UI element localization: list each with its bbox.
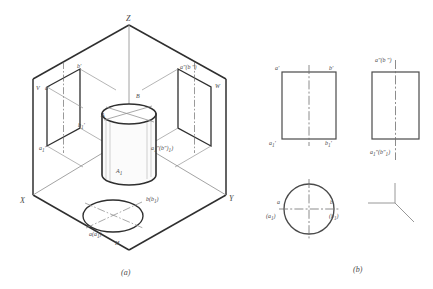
label-top-a: a bbox=[277, 199, 280, 205]
figure-canvas: Z X Y V W H a' b' b1' a1' a″(b ″) a1″(b″… bbox=[0, 0, 433, 289]
top-view-group: a (a1) b (b1) bbox=[266, 179, 339, 239]
engineering-drawing-figure: Z X Y V W H a' b' b1' a1' a″(b ″) a1″(b″… bbox=[0, 0, 433, 289]
label-side-a-b-dbl-prime: a″(b ″) bbox=[375, 57, 392, 64]
label-v-a-prime: a' bbox=[45, 85, 50, 91]
ray-b-prime bbox=[80, 69, 116, 90]
label-front-b-prime: b' bbox=[329, 65, 334, 71]
ray-a1-prime bbox=[47, 146, 83, 167]
label-axis-x: X bbox=[19, 196, 26, 205]
label-v-a1-prime: a1' bbox=[39, 145, 47, 153]
label-plane-v: V bbox=[36, 85, 41, 91]
edge-y-to-bottom bbox=[129, 195, 226, 250]
h-plane-projection-ellipse bbox=[83, 200, 143, 232]
edge-z-to-vtop bbox=[33, 25, 129, 79]
orthographic-views-diagram: a' b' a1' b1' a″(b ″) a1″(b″1) a (a1) b … bbox=[266, 57, 419, 274]
label-h-b-b1: b(b1) bbox=[146, 196, 159, 204]
label-cylinder-a: A bbox=[100, 112, 105, 118]
label-w-a-b-dbl-prime: a″(b ″) bbox=[180, 64, 197, 71]
ray-a-dbl-prime bbox=[142, 69, 178, 90]
projection-axis-origin bbox=[368, 183, 414, 222]
label-axis-y: Y bbox=[229, 194, 235, 203]
axis-origin-diagonal bbox=[395, 203, 414, 222]
ray-w-lower bbox=[175, 146, 211, 167]
label-plane-h: H bbox=[114, 240, 120, 246]
label-front-b1-prime: b1' bbox=[325, 140, 333, 148]
label-w-a1-b1-dbl-prime: a1″(b″)1) bbox=[151, 145, 173, 153]
label-axis-z: Z bbox=[126, 14, 131, 23]
h-centerline-2 bbox=[86, 202, 142, 228]
h-ellipse-centerlines bbox=[85, 202, 143, 228]
label-h-a-a1: a(a1) bbox=[89, 231, 102, 239]
h-ellipse-body bbox=[83, 200, 143, 232]
pictorial-diagram: Z X Y V W H a' b' b1' a1' a″(b ″) a1″(b″… bbox=[19, 14, 235, 277]
label-top-b1: (b1) bbox=[329, 213, 339, 221]
caption-a: (a) bbox=[121, 268, 131, 277]
caption-b: (b) bbox=[353, 265, 363, 274]
label-cylinder-b: B bbox=[136, 93, 140, 99]
h-centerline-1 bbox=[85, 203, 143, 228]
label-top-a1: (a1) bbox=[266, 213, 276, 221]
label-plane-w: W bbox=[215, 83, 221, 89]
side-view-group: a″(b ″) a1″(b″1) bbox=[370, 57, 419, 160]
label-side-a1-b1-dbl-prime: a1″(b″1) bbox=[370, 149, 390, 157]
cylinder-solid bbox=[102, 104, 156, 185]
front-view-group: a' b' a1' b1' bbox=[269, 65, 336, 148]
label-top-b: b bbox=[330, 199, 333, 205]
label-v-b-prime: b' bbox=[77, 63, 82, 69]
label-front-a1-prime: a1' bbox=[269, 140, 277, 148]
label-front-a-prime: a' bbox=[275, 65, 280, 71]
